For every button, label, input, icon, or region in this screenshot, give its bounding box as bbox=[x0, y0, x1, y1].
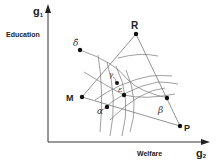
label-alpha: α bbox=[97, 106, 103, 116]
label-M: M bbox=[66, 93, 74, 103]
point-alpha bbox=[105, 105, 109, 109]
y-axis-label: Education bbox=[6, 31, 40, 38]
curve-7 bbox=[98, 55, 102, 132]
line-R-M bbox=[82, 34, 136, 97]
welfare-education-diagram: g1 Education g2 Welfare R M P δ̂ α ε bbox=[0, 0, 216, 164]
label-gamma: γ bbox=[109, 71, 114, 79]
point-epsilon bbox=[122, 93, 126, 97]
axes bbox=[48, 10, 204, 142]
point-delta-hat bbox=[78, 48, 82, 52]
gamma-stem bbox=[113, 77, 116, 82]
label-R: R bbox=[131, 20, 139, 31]
point-M bbox=[80, 95, 84, 99]
label-beta: β bbox=[157, 105, 163, 115]
label-epsilon: ε bbox=[118, 85, 122, 94]
x-axis-arrow-icon bbox=[201, 139, 210, 145]
x-axis-symbol: g2 bbox=[196, 147, 207, 159]
y-axis-symbol: g1 bbox=[33, 5, 44, 18]
point-P bbox=[178, 124, 182, 128]
label-delta-hat: δ̂ bbox=[73, 38, 78, 48]
point-R bbox=[134, 32, 138, 36]
point-beta bbox=[165, 96, 169, 100]
x-axis-label: Welfare bbox=[137, 150, 162, 157]
curve-9 bbox=[116, 66, 126, 136]
indifference-curves bbox=[80, 50, 178, 136]
y-axis-arrow-icon bbox=[45, 4, 51, 13]
label-P: P bbox=[184, 123, 190, 133]
curve-6 bbox=[118, 54, 158, 58]
